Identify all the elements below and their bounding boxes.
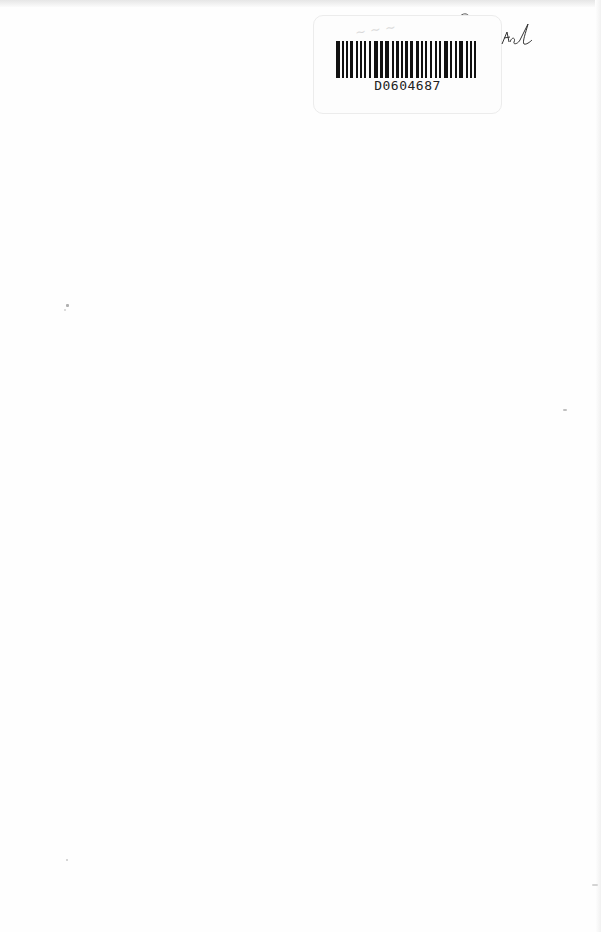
scan-speck [563,409,567,411]
scan-speck [592,884,598,886]
barcode-number: D0604687 [314,78,501,93]
barcode-sticker: D0604687 [313,15,502,114]
scan-edge-shadow-right [595,0,601,932]
handwritten-initials [498,20,538,50]
scan-speck [66,859,68,861]
scanned-page: D0604687 ~ ~ ~ [0,0,601,932]
barcode [336,41,476,78]
scan-speck [66,304,69,307]
scan-edge-shadow [0,0,601,7]
scan-speck [64,309,66,311]
